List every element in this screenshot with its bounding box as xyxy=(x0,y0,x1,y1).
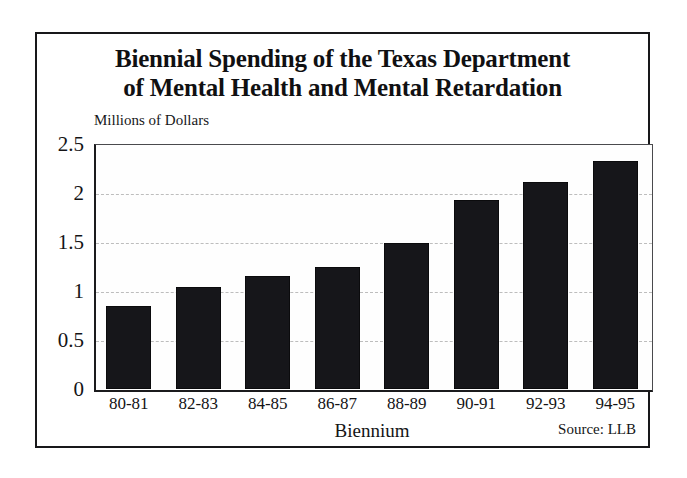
y-tick-label: 1 xyxy=(32,279,84,304)
y-axis-title: Millions of Dollars xyxy=(94,112,209,129)
bar-82-83[interactable] xyxy=(176,287,221,389)
bar-92-93[interactable] xyxy=(523,182,568,389)
figure-frame: Biennial Spending of the Texas Departmen… xyxy=(35,32,650,448)
x-tick-label-84-85: 84-85 xyxy=(233,394,303,414)
bar-88-89[interactable] xyxy=(384,243,429,389)
x-tick-label-92-93: 92-93 xyxy=(511,394,581,414)
x-tick-label-86-87: 86-87 xyxy=(303,394,373,414)
y-axis-tick-labels: 00.511.522.5 xyxy=(32,144,84,389)
bar-80-81[interactable] xyxy=(106,306,151,389)
bar-84-85[interactable] xyxy=(245,276,290,389)
chart-title-line-1: Biennial Spending of the Texas Departmen… xyxy=(51,44,634,73)
bar-series xyxy=(94,144,650,389)
x-axis-tick-labels: 80-8182-8384-8586-8788-8990-9192-9394-95 xyxy=(94,394,650,418)
bar-94-95[interactable] xyxy=(593,161,638,389)
chart-title-line-2: of Mental Health and Mental Retardation xyxy=(51,73,634,102)
x-tick-label-82-83: 82-83 xyxy=(164,394,234,414)
y-tick-label: 1.5 xyxy=(32,230,84,255)
y-tick-label: 2.5 xyxy=(32,132,84,157)
y-tick-label: 2 xyxy=(32,181,84,206)
x-tick-label-94-95: 94-95 xyxy=(581,394,651,414)
x-tick-label-90-91: 90-91 xyxy=(442,394,512,414)
y-tick-label: 0 xyxy=(32,377,84,402)
x-tick-label-88-89: 88-89 xyxy=(372,394,442,414)
chart-title: Biennial Spending of the Texas Departmen… xyxy=(37,44,648,102)
source-note: Source: LLB xyxy=(558,421,636,438)
bar-90-91[interactable] xyxy=(454,200,499,389)
x-tick-label-80-81: 80-81 xyxy=(94,394,164,414)
bar-86-87[interactable] xyxy=(315,267,360,390)
y-tick-label: 0.5 xyxy=(32,328,84,353)
